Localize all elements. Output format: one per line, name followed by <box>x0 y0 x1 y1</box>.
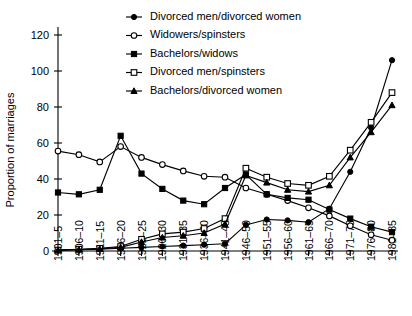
legend-label: Widowers/spinsters <box>150 28 246 40</box>
data-point <box>306 183 312 189</box>
data-point <box>139 155 145 161</box>
data-point <box>327 174 333 180</box>
data-point <box>389 237 395 243</box>
data-point <box>222 174 228 180</box>
data-point <box>118 133 123 138</box>
x-tick-label: 1951–55 <box>261 220 273 261</box>
data-point <box>97 187 102 192</box>
legend-item-0: Divorced men/divorced women <box>126 10 301 22</box>
x-tick-label: 1956–60 <box>282 220 294 261</box>
legend-label: Bachelors/widows <box>150 47 239 59</box>
y-axis-title: Proportion of marriages <box>4 92 16 207</box>
legend-item-4: Bachelors/divorced women <box>126 84 282 96</box>
data-point <box>285 218 290 223</box>
data-point <box>76 152 82 158</box>
data-point <box>348 169 353 174</box>
y-tick-label: 60 <box>37 137 49 149</box>
x-tick-label: 1901–5 <box>52 226 64 261</box>
legend-label: Divorced men/divorced women <box>150 10 301 22</box>
data-point <box>347 147 353 153</box>
chart-legend: Divorced men/divorced womenWidowers/spin… <box>126 10 301 96</box>
y-tick-label: 20 <box>37 209 49 221</box>
data-point <box>160 244 165 249</box>
legend-label: Divorced men/spinsters <box>150 65 265 77</box>
data-point <box>285 195 290 200</box>
data-point <box>55 190 60 195</box>
legend-item-1: Widowers/spinsters <box>126 28 246 40</box>
data-point <box>347 223 353 229</box>
data-point <box>181 198 186 203</box>
x-tick-label: 1916–20 <box>115 220 127 261</box>
data-point <box>97 159 103 165</box>
y-axis: 020406080100120 Proportion of marriages <box>4 27 62 257</box>
data-point <box>202 202 207 207</box>
data-point <box>180 168 186 174</box>
data-point <box>55 148 61 154</box>
data-point <box>202 242 207 247</box>
data-point <box>222 185 227 190</box>
data-point <box>76 192 81 197</box>
data-point <box>285 181 291 187</box>
data-point <box>389 102 395 108</box>
data-point <box>222 241 227 246</box>
data-point <box>139 171 144 176</box>
y-tick-label: 120 <box>31 29 49 41</box>
y-tick-label: 0 <box>43 245 49 257</box>
data-point <box>201 174 207 180</box>
legend-marker-filled-circle-icon <box>131 14 136 19</box>
x-tick-label: 1911–15 <box>94 221 106 261</box>
data-point <box>243 185 249 191</box>
legend-marker-open-square-icon <box>131 70 137 76</box>
data-point <box>181 243 186 248</box>
data-point <box>243 165 249 171</box>
legend-label: Bachelors/divorced women <box>150 84 282 96</box>
y-tick-label: 40 <box>37 173 49 185</box>
legend-item-3: Divorced men/spinsters <box>126 65 265 77</box>
x-tick-label: 1966–70 <box>323 220 335 261</box>
data-point <box>348 216 353 221</box>
data-point <box>368 120 374 126</box>
data-point <box>139 245 144 250</box>
data-point <box>389 230 394 235</box>
data-point <box>118 144 124 150</box>
y-tick-label: 80 <box>37 101 49 113</box>
data-point <box>306 220 311 225</box>
data-point <box>327 207 332 212</box>
data-point <box>160 162 166 168</box>
data-point <box>306 205 312 211</box>
data-point <box>306 197 311 202</box>
data-point <box>389 90 395 96</box>
legend-marker-open-circle-icon <box>131 33 137 39</box>
legend-marker-filled-square-icon <box>131 51 136 56</box>
data-point <box>389 58 394 63</box>
data-point <box>264 217 269 222</box>
data-point <box>160 186 165 191</box>
data-point <box>368 232 374 238</box>
data-point <box>243 222 248 227</box>
y-tick-label: 100 <box>31 65 49 77</box>
x-tick-label: 1906–10 <box>73 220 85 261</box>
line-chart: 020406080100120 Proportion of marriages … <box>0 0 412 316</box>
data-point <box>327 213 333 219</box>
legend-item-2: Bachelors/widows <box>126 47 239 59</box>
chart-container: 020406080100120 Proportion of marriages … <box>0 0 412 316</box>
data-point <box>264 192 269 197</box>
x-tick-label: 1931–35 <box>177 220 189 261</box>
data-point <box>369 224 374 229</box>
y-axis-ticks: 020406080100120 <box>31 29 62 257</box>
x-tick-label: 1961–65 <box>303 220 315 261</box>
